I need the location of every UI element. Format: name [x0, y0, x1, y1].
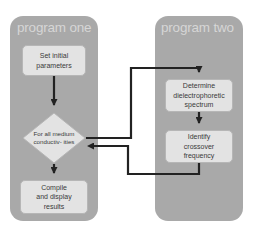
node-identify-crossover-frequency[interactable]: Identify crossover frequency — [165, 130, 233, 163]
node-compile-and-display-results[interactable]: Compile and display results — [20, 180, 88, 214]
node-compile-line-3: results — [22, 202, 86, 212]
node-set-initial-line-2: parameters — [24, 61, 84, 71]
node-determine-dielectrophoretic-spectrum[interactable]: Determine dielectrophoretic spectrum — [165, 79, 233, 112]
node-identify-line-1: Identify — [167, 132, 231, 142]
node-determine-line-2: dielectrophoretic — [167, 91, 231, 101]
panel-program-two: program two — [155, 16, 243, 221]
panel-program-two-title: program two — [158, 20, 243, 35]
node-set-initial-parameters[interactable]: Set initial parameters — [22, 45, 86, 76]
node-decision-line-4: ities — [63, 138, 74, 145]
node-decision-label: For all medium conductiv- ities — [22, 112, 86, 164]
node-decision-line-1: For — [34, 130, 43, 137]
node-decision-line-3: conductiv- — [34, 138, 62, 145]
panel-program-one-title: program one — [13, 20, 98, 35]
node-determine-line-1: Determine — [167, 81, 231, 91]
node-compile-line-2: and display — [22, 192, 86, 202]
node-determine-line-3: spectrum — [167, 100, 231, 110]
node-decision-line-2: all medium — [45, 130, 75, 137]
node-compile-line-1: Compile — [22, 183, 86, 193]
node-identify-line-2: crossover — [167, 142, 231, 152]
flowchart-canvas: program one program two Set initial para… — [0, 0, 254, 234]
node-set-initial-line-1: Set initial — [24, 51, 84, 61]
node-decision-all-medium-conductivities[interactable]: For all medium conductiv- ities — [22, 112, 86, 164]
node-identify-line-3: frequency — [167, 151, 231, 161]
